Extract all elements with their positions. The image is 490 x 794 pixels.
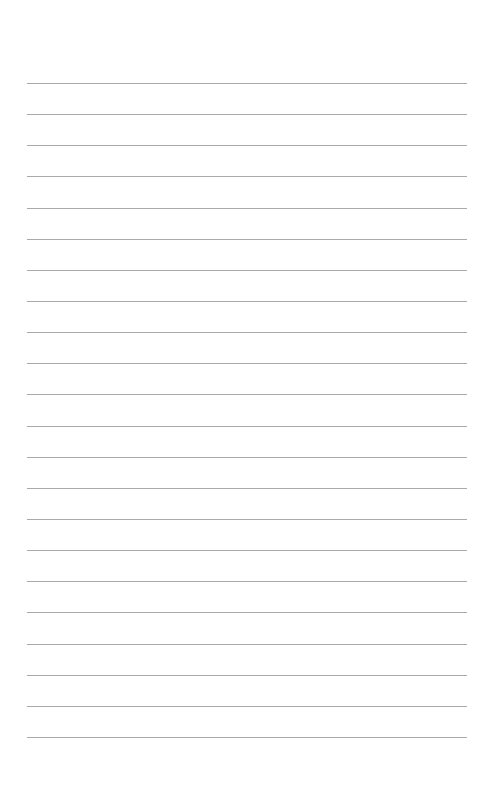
lined-paper-page [0, 0, 490, 794]
ruled-line [27, 363, 467, 364]
ruled-line [27, 394, 467, 395]
ruled-line [27, 239, 467, 240]
ruled-line [27, 426, 467, 427]
ruled-line [27, 208, 467, 209]
ruled-line [27, 675, 467, 676]
ruled-line [27, 176, 467, 177]
ruled-line [27, 332, 467, 333]
ruled-line [27, 706, 467, 707]
ruled-line [27, 644, 467, 645]
ruled-line [27, 612, 467, 613]
ruled-line [27, 457, 467, 458]
ruled-line [27, 145, 467, 146]
ruled-line [27, 301, 467, 302]
ruled-line [27, 581, 467, 582]
ruled-line [27, 488, 467, 489]
ruled-line [27, 519, 467, 520]
ruled-line [27, 737, 467, 738]
ruled-line [27, 270, 467, 271]
ruled-line [27, 550, 467, 551]
ruled-line [27, 83, 467, 84]
ruled-line [27, 114, 467, 115]
